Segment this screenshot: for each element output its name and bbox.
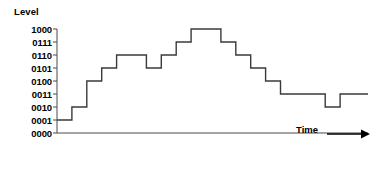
x-axis-title: Time xyxy=(296,124,318,135)
y-axis-tick-marks xyxy=(53,29,57,133)
staircase-signal-figure: Level 1000011101100101010000110010000100… xyxy=(0,0,381,170)
plot-area xyxy=(0,0,381,170)
right-arrow-icon xyxy=(327,128,371,140)
signal-staircase-line xyxy=(57,29,368,120)
